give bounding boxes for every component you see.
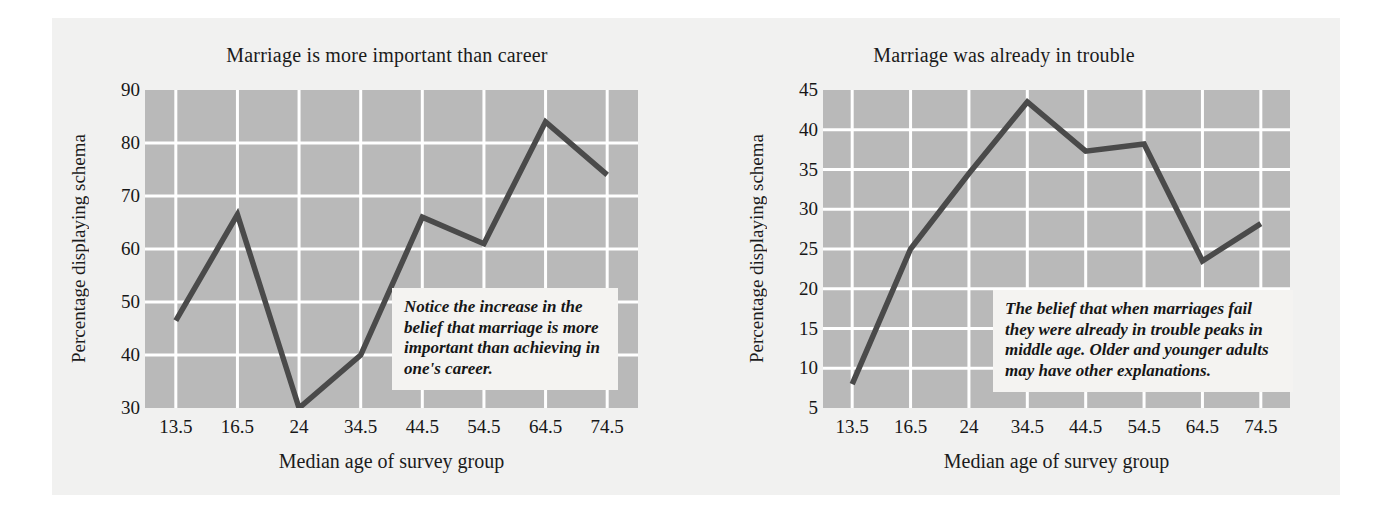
y-axis-tick-labels: 51015202530354045 — [772, 90, 818, 408]
y-axis-tick-label: 5 — [809, 397, 819, 419]
figure-page: Marriage is more important than career P… — [0, 0, 1386, 521]
y-axis-tick-label: 30 — [121, 397, 140, 419]
y-axis-title: Percentage displaying schema — [744, 90, 770, 408]
x-axis-tick-labels: 13.516.52434.544.554.564.574.5 — [823, 416, 1290, 442]
chart-title: Marriage was already in trouble — [708, 44, 1340, 67]
x-axis-tick-label: 13.5 — [159, 416, 192, 438]
y-axis-tick-label: 40 — [121, 344, 140, 366]
y-axis-title: Percentage displaying schema — [66, 90, 92, 408]
x-axis-tick-label: 24 — [290, 416, 309, 438]
annotation-callout: Notice the increase in the belief that m… — [392, 288, 618, 390]
x-axis-tick-label: 54.5 — [467, 416, 500, 438]
x-axis-tick-label: 44.5 — [1069, 416, 1102, 438]
y-axis-tick-label: 40 — [799, 119, 818, 141]
chart-title: Marriage is more important than career — [52, 44, 692, 67]
x-axis-tick-labels: 13.516.52434.544.554.564.574.5 — [145, 416, 638, 442]
y-axis-tick-label: 70 — [121, 185, 140, 207]
x-axis-title: Median age of survey group — [823, 450, 1290, 473]
x-axis-tick-label: 16.5 — [221, 416, 254, 438]
y-axis-tick-label: 15 — [799, 318, 818, 340]
x-axis-tick-label: 34.5 — [344, 416, 377, 438]
y-axis-tick-label: 10 — [799, 357, 818, 379]
chart-marriage-more-important-than-career: Marriage is more important than career P… — [52, 18, 692, 495]
x-axis-tick-label: 74.5 — [1244, 416, 1277, 438]
annotation-callout: The belief that when marriages fail they… — [993, 290, 1293, 392]
chart-marriage-already-in-trouble: Marriage was already in trouble Percenta… — [708, 18, 1340, 495]
y-axis-tick-label: 45 — [799, 79, 818, 101]
y-axis-tick-label: 30 — [799, 198, 818, 220]
y-axis-tick-label: 60 — [121, 238, 140, 260]
x-axis-tick-label: 44.5 — [406, 416, 439, 438]
x-axis-tick-label: 54.5 — [1127, 416, 1160, 438]
y-axis-tick-label: 90 — [121, 79, 140, 101]
x-axis-tick-label: 16.5 — [894, 416, 927, 438]
y-axis-tick-label: 35 — [799, 159, 818, 181]
x-axis-tick-label: 13.5 — [836, 416, 869, 438]
figure-panel: Marriage is more important than career P… — [52, 18, 1340, 495]
y-axis-tick-label: 25 — [799, 238, 818, 260]
x-axis-tick-label: 74.5 — [591, 416, 624, 438]
x-axis-title: Median age of survey group — [145, 450, 638, 473]
y-axis-tick-label: 80 — [121, 132, 140, 154]
x-axis-tick-label: 64.5 — [529, 416, 562, 438]
x-axis-tick-label: 24 — [959, 416, 978, 438]
y-axis-tick-label: 50 — [121, 291, 140, 313]
x-axis-tick-label: 64.5 — [1186, 416, 1219, 438]
y-axis-tick-label: 20 — [799, 278, 818, 300]
y-axis-tick-labels: 30405060708090 — [94, 90, 140, 408]
x-axis-tick-label: 34.5 — [1011, 416, 1044, 438]
